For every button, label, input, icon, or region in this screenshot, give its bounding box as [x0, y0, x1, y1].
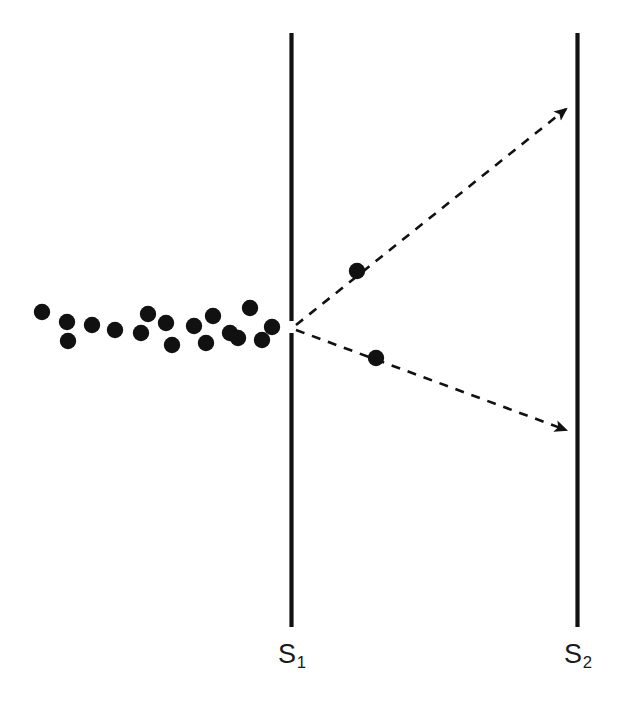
diagram-canvas: S1 S2	[0, 0, 621, 712]
particle	[158, 315, 174, 331]
upper-ray	[296, 109, 566, 325]
particle	[264, 319, 280, 335]
double-slit-diagram	[0, 0, 621, 712]
particle	[164, 337, 180, 353]
particle	[107, 322, 123, 338]
particle	[59, 314, 75, 330]
particle	[186, 318, 202, 334]
diffracted-particles	[349, 263, 384, 366]
particle	[60, 333, 76, 349]
particle	[140, 306, 156, 322]
barrier-label-s1-text: S	[278, 639, 296, 669]
particle-on-upper-ray	[349, 263, 365, 279]
particle	[34, 304, 50, 320]
barrier-label-s2-subscript: 2	[583, 653, 593, 672]
lower-ray	[296, 330, 566, 430]
particle	[242, 300, 258, 316]
particle	[133, 325, 149, 341]
barrier-label-s2: S2	[564, 641, 592, 668]
particle	[230, 330, 246, 346]
barrier-label-s1: S1	[278, 641, 306, 668]
particle	[198, 335, 214, 351]
incident-particle-cloud	[34, 300, 280, 353]
barrier-label-s1-subscript: 1	[297, 653, 307, 672]
particle	[84, 317, 100, 333]
particle	[254, 332, 270, 348]
particle	[205, 308, 221, 324]
particle-on-lower-ray	[368, 350, 384, 366]
barrier-label-s2-text: S	[564, 639, 582, 669]
diffracted-rays	[296, 109, 566, 430]
